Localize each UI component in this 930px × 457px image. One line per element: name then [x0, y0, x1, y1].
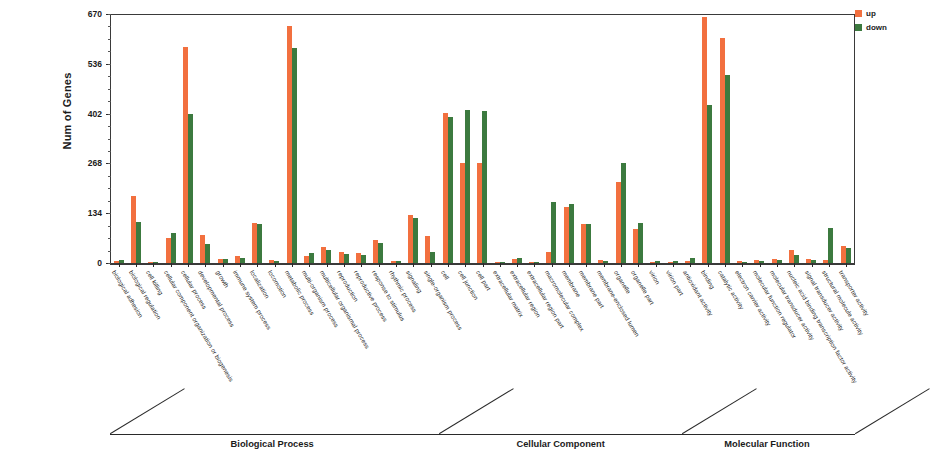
- group-axis: Biological ProcessCellular ComponentMole…: [0, 400, 923, 457]
- bar-group: [768, 14, 785, 263]
- y-tick-label: 670: [88, 9, 102, 19]
- bar-group: [318, 14, 335, 263]
- bar-down: [171, 233, 176, 263]
- legend-item-down: down: [855, 23, 917, 32]
- bar-group: [404, 14, 421, 263]
- y-minor-tick: [108, 176, 111, 177]
- y-minor-tick: [108, 51, 111, 52]
- y-minor-tick: [108, 151, 111, 152]
- y-minor-tick: [108, 14, 111, 15]
- bar-group: [456, 14, 473, 263]
- y-tick-label: 134: [88, 208, 102, 218]
- y-tick-label: 268: [88, 158, 102, 168]
- bar-group: [612, 14, 629, 263]
- legend-swatch-up-icon: [855, 10, 862, 17]
- bar-down: [413, 218, 418, 263]
- y-tick-label: 402: [88, 109, 102, 119]
- bar-group: [785, 14, 802, 263]
- bar-group: [266, 14, 283, 263]
- bar-group: [474, 14, 491, 263]
- bar-down: [482, 111, 487, 263]
- bar-group: [231, 14, 248, 263]
- bar-down: [430, 252, 435, 263]
- bar-group: [179, 14, 196, 263]
- bar-down: [465, 110, 470, 263]
- bar-group: [214, 14, 231, 263]
- bar-group: [803, 14, 820, 263]
- bar-series-container: [110, 14, 855, 263]
- y-minor-tick: [108, 101, 111, 102]
- bar-group: [664, 14, 681, 263]
- x-category-label: cell: [440, 269, 451, 281]
- bar-group: [387, 14, 404, 263]
- bar-group: [283, 14, 300, 263]
- bar-down: [361, 255, 366, 263]
- group-base-line: [682, 434, 855, 435]
- bar-group: [681, 14, 698, 263]
- y-minor-tick: [108, 163, 111, 164]
- x-category-label: signaling: [405, 269, 424, 294]
- group-base-line: [110, 434, 439, 435]
- bar-group: [422, 14, 439, 263]
- bar-group: [560, 14, 577, 263]
- bar-group: [335, 14, 352, 263]
- bar-down: [188, 114, 193, 263]
- x-axis-category-labels: biological adhesionbiological regulation…: [0, 263, 923, 413]
- legend-item-up: up: [855, 9, 917, 18]
- x-category-label: cell part: [474, 269, 491, 292]
- group-base-line: [439, 434, 682, 435]
- bar-down: [326, 250, 331, 263]
- bar-group: [439, 14, 456, 263]
- bar-group: [491, 14, 508, 263]
- y-minor-tick: [108, 251, 111, 252]
- bar-group: [820, 14, 837, 263]
- bar-group: [110, 14, 127, 263]
- bar-group: [127, 14, 144, 263]
- x-category-label: binding: [700, 269, 716, 290]
- bar-down: [828, 228, 833, 263]
- bar-group: [352, 14, 369, 263]
- bar-group: [699, 14, 716, 263]
- bar-down: [569, 204, 574, 263]
- y-minor-tick: [108, 126, 111, 127]
- x-category-label: growth: [215, 269, 231, 289]
- bar-group: [647, 14, 664, 263]
- bar-down: [344, 254, 349, 263]
- bar-group: [370, 14, 387, 263]
- y-minor-tick: [108, 26, 111, 27]
- y-minor-tick: [108, 201, 111, 202]
- legend: up down: [855, 9, 917, 37]
- x-category-label: biological adhesion: [111, 269, 145, 319]
- bar-down: [136, 222, 141, 263]
- legend-label-down: down: [866, 23, 887, 32]
- bar-down: [586, 224, 591, 263]
- y-minor-tick: [108, 226, 111, 227]
- bar-down: [846, 248, 851, 263]
- group-label: Biological Process: [231, 439, 314, 449]
- y-axis-ticks: 0134268402536670: [70, 0, 106, 275]
- bar-down: [794, 255, 799, 263]
- bar-group: [751, 14, 768, 263]
- bar-group: [543, 14, 560, 263]
- y-minor-tick: [108, 39, 111, 40]
- y-minor-tick: [108, 188, 111, 189]
- bar-group: [595, 14, 612, 263]
- bar-down: [205, 244, 210, 263]
- bar-group: [733, 14, 750, 263]
- group-label: Cellular Component: [516, 439, 604, 449]
- bar-down: [448, 117, 453, 263]
- bar-group: [249, 14, 266, 263]
- x-category-label: extracellular matrix: [492, 269, 525, 318]
- y-minor-tick: [108, 76, 111, 77]
- legend-label-up: up: [866, 9, 876, 18]
- bar-down: [707, 105, 712, 263]
- bar-group: [577, 14, 594, 263]
- bar-group: [145, 14, 162, 263]
- legend-swatch-down-icon: [855, 24, 862, 31]
- bar-down: [621, 163, 626, 263]
- bar-down: [292, 48, 297, 263]
- bar-group: [629, 14, 646, 263]
- bar-group: [508, 14, 525, 263]
- x-category-label: virion: [648, 269, 662, 286]
